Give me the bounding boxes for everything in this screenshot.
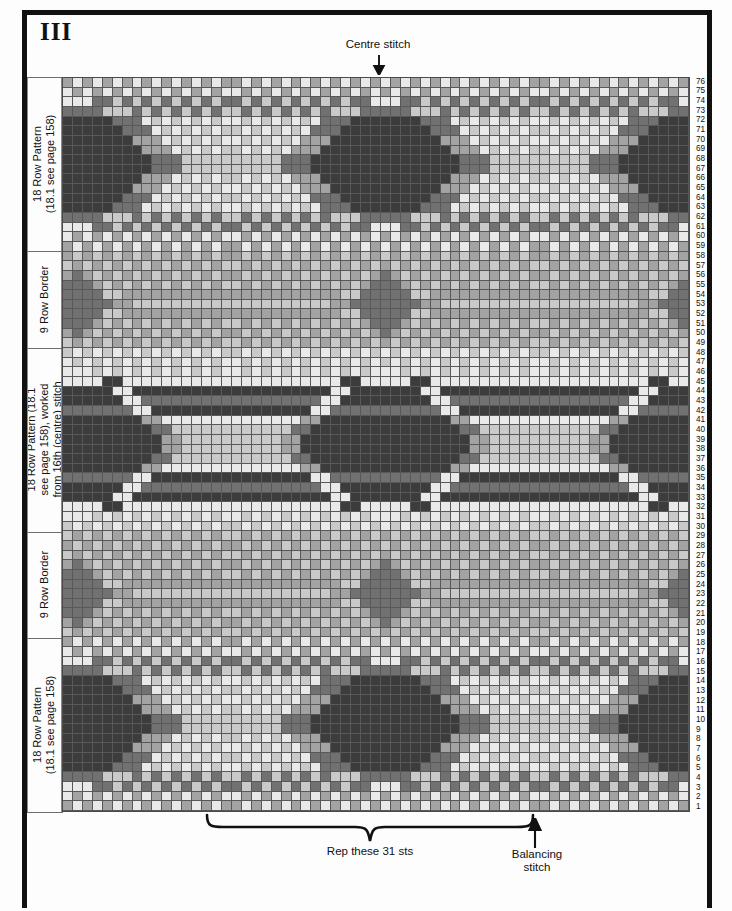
stitch-cell xyxy=(480,88,490,98)
stitch-cell xyxy=(441,126,451,136)
stitch-cell xyxy=(202,126,212,136)
stitch-cell xyxy=(610,155,620,165)
stitch-cell xyxy=(610,637,620,647)
stitch-cell xyxy=(341,203,351,213)
stitch-cell xyxy=(540,464,550,474)
stitch-cell xyxy=(421,637,431,647)
stitch-cell xyxy=(570,136,580,146)
stitch-cell xyxy=(232,608,242,618)
stitch-cell xyxy=(580,541,590,551)
stitch-cell xyxy=(560,743,570,753)
stitch-cell xyxy=(540,309,550,319)
stitch-cell xyxy=(172,599,182,609)
stitch-cell xyxy=(441,522,451,532)
stitch-cell xyxy=(421,686,431,696)
stitch-cell xyxy=(272,647,282,657)
stitch-cell xyxy=(133,454,143,464)
stitch-cell xyxy=(292,126,302,136)
stitch-cell xyxy=(222,608,232,618)
stitch-cell xyxy=(83,155,93,165)
stitch-cell xyxy=(242,541,252,551)
stitch-cell xyxy=(182,560,192,570)
stitch-cell xyxy=(431,445,441,455)
stitch-cell xyxy=(500,695,510,705)
stitch-cell xyxy=(480,599,490,609)
stitch-cell xyxy=(401,435,411,445)
stitch-cell xyxy=(470,473,480,483)
stitch-cell xyxy=(470,377,480,387)
stitch-cell xyxy=(480,358,490,368)
stitch-cell xyxy=(371,464,381,474)
stitch-cell xyxy=(530,78,540,88)
stitch-cell xyxy=(490,599,500,609)
stitch-cell xyxy=(162,772,172,782)
stitch-cell xyxy=(93,782,103,792)
stitch-cell xyxy=(202,647,212,657)
stitch-cell xyxy=(172,580,182,590)
stitch-cell xyxy=(401,300,411,310)
stitch-cell xyxy=(411,252,421,262)
stitch-cell xyxy=(500,637,510,647)
stitch-cell xyxy=(550,136,560,146)
stitch-cell xyxy=(192,782,202,792)
stitch-cell xyxy=(83,647,93,657)
stitch-cell xyxy=(619,387,629,397)
stitch-cell xyxy=(212,570,222,580)
stitch-cell xyxy=(192,493,202,503)
stitch-cell xyxy=(341,358,351,368)
stitch-cell xyxy=(133,580,143,590)
stitch-cell xyxy=(63,531,73,541)
stitch-cell xyxy=(421,589,431,599)
stitch-cell xyxy=(361,117,371,127)
stitch-cell xyxy=(470,97,480,107)
page-frame-top xyxy=(22,10,712,15)
stitch-cell xyxy=(639,309,649,319)
stitch-cell xyxy=(73,107,83,117)
stitch-cell xyxy=(341,348,351,358)
stitch-cell xyxy=(152,666,162,676)
stitch-cell xyxy=(470,666,480,676)
stitch-cell xyxy=(123,618,133,628)
stitch-cell xyxy=(162,78,172,88)
stitch-cell xyxy=(560,657,570,667)
stitch-cell xyxy=(252,801,262,811)
stitch-cell xyxy=(480,647,490,657)
stitch-cell xyxy=(470,117,480,127)
stitch-cell xyxy=(212,194,222,204)
stitch-cell xyxy=(431,348,441,358)
stitch-cell xyxy=(411,97,421,107)
stitch-cell xyxy=(182,705,192,715)
stitch-cell xyxy=(460,338,470,348)
stitch-cell xyxy=(182,136,192,146)
row-number: 35 xyxy=(694,474,716,484)
stitch-cell xyxy=(629,242,639,252)
stitch-cell xyxy=(619,271,629,281)
stitch-cell xyxy=(490,580,500,590)
stitch-cell xyxy=(371,126,381,136)
stitch-cell xyxy=(123,772,133,782)
stitch-cell xyxy=(182,97,192,107)
stitch-cell xyxy=(351,117,361,127)
stitch-cell xyxy=(629,406,639,416)
stitch-cell xyxy=(63,348,73,358)
stitch-cell xyxy=(222,117,232,127)
stitch-cell xyxy=(172,309,182,319)
stitch-cell xyxy=(63,78,73,88)
stitch-cell xyxy=(441,155,451,165)
stitch-cell xyxy=(619,676,629,686)
stitch-cell xyxy=(351,657,361,667)
stitch-cell xyxy=(133,464,143,474)
row-number: 42 xyxy=(694,406,716,416)
stitch-cell xyxy=(550,686,560,696)
stitch-cell xyxy=(222,628,232,638)
stitch-cell xyxy=(520,377,530,387)
stitch-cell xyxy=(232,338,242,348)
stitch-cell xyxy=(490,319,500,329)
stitch-cell xyxy=(649,126,659,136)
stitch-cell xyxy=(93,242,103,252)
stitch-cell xyxy=(550,753,560,763)
stitch-cell xyxy=(262,107,272,117)
stitch-cell xyxy=(232,657,242,667)
stitch-cell xyxy=(560,560,570,570)
stitch-cell xyxy=(282,743,292,753)
